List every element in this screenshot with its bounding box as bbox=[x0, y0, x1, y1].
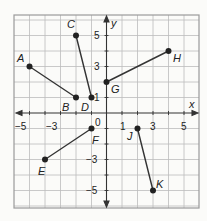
point-label-C: C bbox=[67, 18, 75, 30]
point-G bbox=[104, 79, 110, 85]
point-A bbox=[27, 64, 33, 70]
y-axis-label: y bbox=[110, 17, 118, 29]
point-label-A: A bbox=[16, 52, 24, 64]
point-label-E: E bbox=[38, 165, 46, 177]
x-axis-left-arrow-icon bbox=[16, 111, 22, 116]
x-axis-label: x bbox=[188, 98, 195, 110]
y-tick-label: 3 bbox=[94, 61, 100, 72]
point-label-H: H bbox=[173, 52, 181, 64]
x-tick-label: 3 bbox=[150, 121, 156, 132]
point-label-B: B bbox=[62, 101, 69, 113]
point-label-D: D bbox=[81, 101, 89, 113]
point-E bbox=[42, 157, 48, 163]
coordinate-plane: x y 0 −5 −3 1 3 5 5 3 1 −3 −5 A B C D E … bbox=[0, 0, 207, 221]
x-tick-label: −5 bbox=[15, 121, 27, 132]
point-label-J: J bbox=[126, 130, 133, 142]
point-label-G: G bbox=[111, 83, 120, 95]
axes bbox=[16, 16, 198, 207]
point-H bbox=[166, 48, 172, 54]
point-B bbox=[73, 95, 79, 101]
y-tick-label: 1 bbox=[94, 92, 100, 103]
x-axis-right-arrow-icon bbox=[192, 111, 198, 116]
y-tick-label: 5 bbox=[94, 30, 100, 41]
y-axis-up-arrow-icon bbox=[104, 16, 109, 22]
point-D bbox=[89, 95, 95, 101]
point-F bbox=[89, 126, 95, 132]
point-J bbox=[135, 126, 141, 132]
y-tick-label: −5 bbox=[86, 185, 98, 196]
point-C bbox=[73, 33, 79, 39]
origin-label: 0 bbox=[95, 117, 101, 128]
x-tick-label: −3 bbox=[46, 121, 58, 132]
y-tick-label: −3 bbox=[86, 154, 98, 165]
point-label-K: K bbox=[156, 178, 164, 190]
x-tick-label: 5 bbox=[181, 121, 187, 132]
x-tick-label: 1 bbox=[120, 121, 126, 132]
